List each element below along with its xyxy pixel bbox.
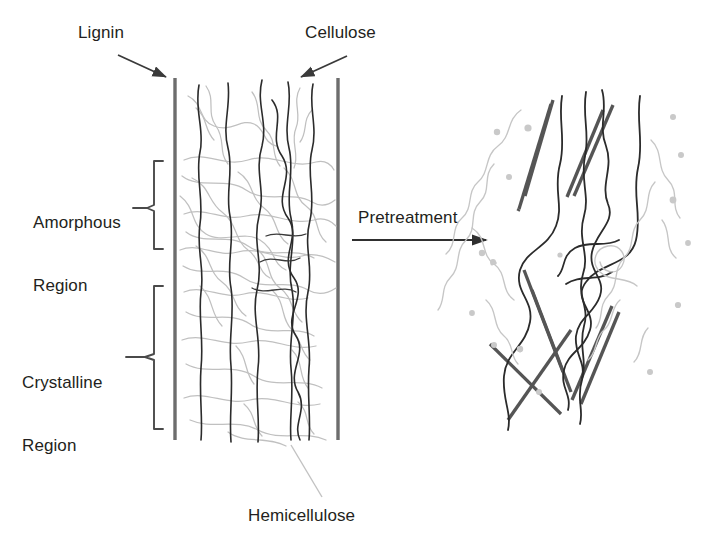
label-amorphous-region-line2: Region <box>33 275 121 296</box>
label-pretreatment: Pretreatment <box>358 207 457 228</box>
label-cellulose: Cellulose <box>305 22 376 43</box>
hemicellulose-leader-line <box>291 445 322 497</box>
amorphous-crosslinks <box>252 234 306 292</box>
dispersed-hemicellulose <box>438 110 680 364</box>
amorphous-region-bracket <box>133 161 163 249</box>
lignin-arrow <box>118 55 166 77</box>
label-amorphous-region: Amorphous Region <box>33 170 121 338</box>
label-lignin: Lignin <box>78 22 124 43</box>
label-crystalline-region: Crystalline Region <box>22 330 102 498</box>
cellulose-arrow <box>301 56 347 77</box>
hemicellulose-network <box>180 86 336 446</box>
label-crystalline-region-line1: Crystalline <box>22 372 102 393</box>
label-amorphous-region-line1: Amorphous <box>33 212 121 233</box>
crystalline-region-bracket <box>126 286 163 429</box>
label-hemicellulose: Hemicellulose <box>248 505 355 526</box>
biomass-pretreatment-figure: Lignin Cellulose Amorphous Region Crysta… <box>0 0 711 549</box>
pretreated-biomass-structure <box>438 90 691 430</box>
solubilised-fragment-dots <box>469 114 691 395</box>
intact-biomass-structure <box>175 78 338 446</box>
lignin-fragments <box>490 100 619 420</box>
cellulose-microfibrils <box>198 80 314 442</box>
label-crystalline-region-line2: Region <box>22 435 102 456</box>
